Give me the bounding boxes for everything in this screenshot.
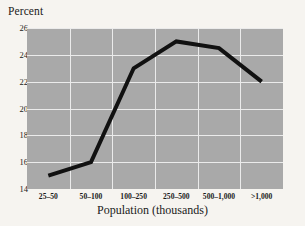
y-tick-label: 20 [0,104,28,114]
y-axis-label: Percent [8,5,43,17]
y-tick-label: 22 [0,77,28,87]
x-tick-label: 500–1,000 [203,192,235,201]
y-tick-label: 18 [0,130,28,140]
x-axis-label: Population (thousands) [0,203,305,218]
x-tick-label: 100–250 [120,192,147,201]
y-tick-label: 16 [0,157,28,167]
data-series-line [27,28,283,189]
plot-area [27,28,283,189]
series-polyline [48,41,261,175]
y-tick-label: 24 [0,50,28,60]
x-tick-label: 25–50 [39,192,58,201]
x-tick-label: 250–500 [163,192,190,201]
x-tick-label: 50–100 [80,192,103,201]
y-tick-label: 14 [0,184,28,194]
x-tick-label: >1,000 [251,192,272,201]
y-tick-label: 26 [0,23,28,33]
chart-figure: Percent 26242220181614 25–5050–100100–25… [0,0,305,226]
